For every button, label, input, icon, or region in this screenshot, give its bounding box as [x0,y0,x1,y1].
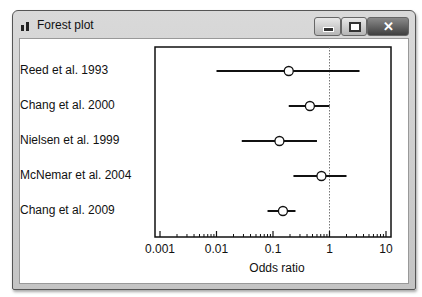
x-tick-label: 0.01 [205,242,229,256]
point-estimate-marker [284,67,293,76]
x-tick-label: 10 [379,242,393,256]
x-tick-label: 0.1 [265,242,282,256]
x-tick-label: 1 [326,242,333,256]
point-estimate-marker [278,207,287,216]
point-estimate-marker [275,137,284,146]
x-tick-label: 0.001 [145,242,175,256]
point-estimate-marker [317,172,326,181]
x-axis-label: Odds ratio [249,261,305,275]
point-estimate-marker [305,102,314,111]
forest-chart: 0.0010.010.1110Odds ratio [0,0,422,297]
